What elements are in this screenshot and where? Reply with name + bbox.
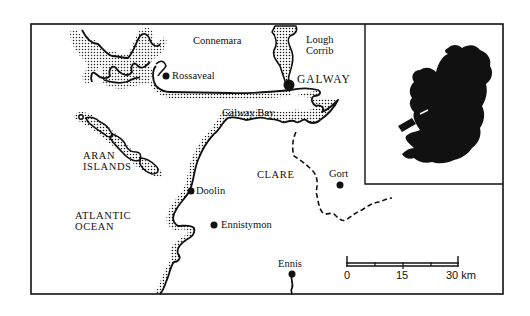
ireland-silhouette: [398, 45, 492, 163]
ennis-river: [291, 275, 292, 294]
scale-label-15: 15: [396, 270, 408, 281]
connemara-coast: [70, 28, 292, 99]
label-aran-islands: ARAN ISLANDS: [83, 150, 132, 172]
label-aran-line2: ISLANDS: [83, 161, 132, 172]
label-ennistymon: Ennistymon: [221, 220, 272, 231]
label-connemara: Connemara: [193, 36, 241, 47]
scale-bar: [346, 256, 459, 269]
label-aran-line1: ARAN: [83, 150, 132, 161]
town-dot-ennistymon: [211, 222, 218, 229]
scale-label-0: 0: [344, 270, 350, 281]
label-clare: CLARE: [257, 170, 294, 181]
label-rossaveal: Rossaveal: [172, 71, 215, 82]
clare-coast: [154, 128, 214, 294]
label-gort: Gort: [329, 169, 348, 180]
scale-label-30km: 30 km: [446, 270, 476, 281]
label-lough-corrib: Lough Corrib: [306, 34, 333, 56]
label-lough-corrib-line2: Corrib: [306, 45, 333, 56]
town-dot-galway: [284, 80, 295, 91]
label-ennis: Ennis: [278, 259, 302, 270]
label-atlantic-line2: OCEAN: [75, 221, 131, 232]
town-dot-rossaveal: [163, 73, 170, 80]
town-dot-gort: [337, 182, 344, 189]
label-lough-corrib-line1: Lough: [306, 34, 333, 45]
lough-corrib: [272, 26, 297, 84]
label-atlantic-line1: ATLANTIC: [75, 210, 131, 221]
town-dot-ennis: [289, 271, 296, 278]
label-atlantic-ocean: ATLANTIC OCEAN: [75, 210, 131, 232]
label-galway-bay: Galway Bay: [222, 108, 274, 119]
label-galway: GALWAY: [297, 74, 351, 86]
town-dot-doolin: [188, 188, 195, 195]
label-doolin: Doolin: [196, 186, 225, 197]
